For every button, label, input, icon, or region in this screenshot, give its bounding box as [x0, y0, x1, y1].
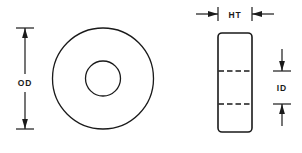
- id-arrowhead-top: [279, 61, 285, 71]
- drawing-canvas: OD HT: [0, 0, 302, 153]
- washer-dimension-drawing: OD HT: [0, 0, 302, 153]
- dimension-id: ID: [273, 49, 291, 126]
- od-arrowhead-top: [22, 28, 28, 38]
- ht-arrowhead-right: [252, 11, 262, 17]
- id-arrowhead-bottom: [279, 104, 285, 114]
- dimension-ht: HT: [196, 7, 274, 21]
- dimension-od: OD: [16, 28, 34, 129]
- od-label: OD: [18, 78, 33, 88]
- ht-label: HT: [228, 10, 241, 20]
- ht-arrowhead-left: [208, 11, 218, 17]
- id-label: ID: [277, 83, 287, 93]
- front-view-annulus: [53, 28, 154, 129]
- inner-diameter-circle: [86, 61, 121, 96]
- outer-diameter-circle: [53, 28, 154, 129]
- side-view-rectangle: [218, 33, 252, 132]
- od-arrowhead-bottom: [22, 119, 28, 129]
- profile-outline: [218, 33, 252, 132]
